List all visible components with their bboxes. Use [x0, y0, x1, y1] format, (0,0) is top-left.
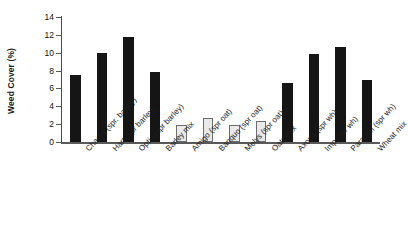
y-tick-mark [56, 53, 61, 54]
x-axis-label-wrap: Chariot (spr. barley) [84, 147, 91, 153]
y-tick-label: 14 [8, 12, 54, 22]
y-tick-label: 8 [8, 66, 54, 76]
y-tick-label: 6 [8, 83, 54, 93]
x-axis-label-wrap: Oats mix [270, 147, 277, 153]
y-tick-label: 12 [8, 30, 54, 40]
x-axis-label-wrap: Axona (spr wh) [296, 147, 303, 153]
y-tick-mark [56, 17, 61, 18]
y-tick-mark [56, 124, 61, 125]
x-axis-label-wrap: Hart (spr barley) [111, 147, 118, 153]
y-tick-mark [56, 88, 61, 89]
y-tick-mark [56, 106, 61, 107]
x-axis-label-wrap: Barley mix [164, 147, 171, 153]
x-axis-label-wrap: Optic (spr barley) [137, 147, 144, 153]
x-axis-label-wrap: Banquo (spr oat) [217, 147, 224, 153]
y-tick-label: 0 [8, 137, 54, 147]
x-axis-label-wrap: Amigo (spr oat) [190, 147, 197, 153]
y-tick-label: 4 [8, 101, 54, 111]
x-axis-label-wrap: Melys (spr oat) [243, 147, 250, 153]
y-tick-mark [56, 35, 61, 36]
bar [70, 75, 81, 142]
y-tick-label: 10 [8, 48, 54, 58]
x-axis-label-wrap: Wheat mix [376, 147, 383, 153]
x-axis-label-wrap: Paragon (spr wh) [349, 147, 356, 153]
y-tick-mark [56, 71, 61, 72]
x-axis-label-wrap: Imp (spr wh) [323, 147, 330, 153]
y-tick-label: 2 [8, 119, 54, 129]
y-tick-mark [56, 142, 61, 143]
